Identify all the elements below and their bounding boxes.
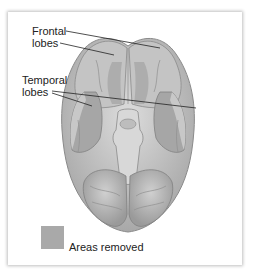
temporal-label-line2: lobes [22, 86, 67, 98]
right-cerebellum [129, 170, 173, 227]
frontal-label-line1: Frontal [32, 25, 66, 37]
temporal-lobes-label: Temporal lobes [22, 74, 67, 98]
legend-swatch-areas-removed [41, 226, 64, 249]
legend-label: Areas removed [69, 241, 144, 253]
temporal-label-line1: Temporal [22, 74, 67, 86]
removed-area-frontal-right [134, 62, 149, 104]
frontal-lobes-label: Frontal lobes [32, 25, 66, 49]
frontal-label-line2: lobes [32, 37, 66, 49]
left-cerebellum [83, 170, 127, 227]
